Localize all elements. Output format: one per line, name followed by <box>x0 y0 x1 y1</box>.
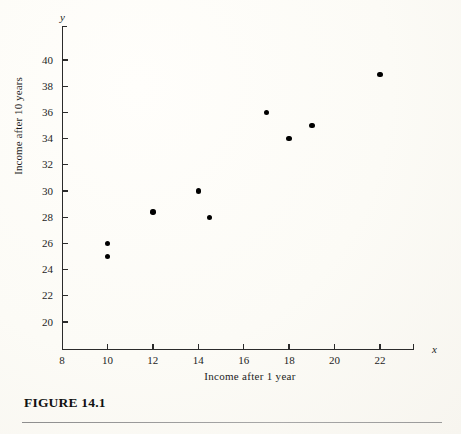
y-tick-label: 24 <box>27 264 53 275</box>
y-tick-label: 22 <box>27 290 53 301</box>
y-tick <box>62 243 68 244</box>
y-tick-label: 26 <box>27 238 53 249</box>
x-axis-symbol: x <box>432 343 437 355</box>
x-tick-label: 8 <box>47 355 77 366</box>
y-axis-title: Income after 10 years <box>12 46 24 206</box>
scatter-plot: 2022242628303234363840 810121416182022 y… <box>0 0 461 392</box>
y-tick <box>62 295 68 296</box>
x-tick <box>243 344 244 350</box>
caption-divider <box>22 422 442 423</box>
data-point <box>309 123 314 128</box>
x-tick-label: 22 <box>365 355 395 366</box>
data-point <box>207 215 212 220</box>
x-tick <box>152 344 153 350</box>
data-point <box>150 209 155 214</box>
y-axis-top-cap <box>62 26 67 27</box>
y-tick-label: 32 <box>27 159 53 170</box>
x-tick-label: 12 <box>138 355 168 366</box>
y-tick <box>62 269 68 270</box>
x-tick-label: 16 <box>229 355 259 366</box>
data-point <box>105 254 110 259</box>
y-tick <box>62 59 68 60</box>
x-axis-title: Income after 1 year <box>140 370 360 382</box>
y-tick-label: 28 <box>27 212 53 223</box>
y-tick-label: 38 <box>27 81 53 92</box>
x-tick-label: 14 <box>183 355 213 366</box>
data-point <box>377 72 382 77</box>
y-tick-label: 20 <box>27 317 53 328</box>
data-point <box>105 241 110 246</box>
x-tick-label: 18 <box>274 355 304 366</box>
y-tick-label: 34 <box>27 133 53 144</box>
data-point <box>264 110 269 115</box>
y-tick-label: 36 <box>27 107 53 118</box>
figure-caption-block: FIGURE 14.1 <box>0 392 461 434</box>
y-tick <box>62 190 68 191</box>
x-tick <box>198 344 199 350</box>
y-tick <box>62 321 68 322</box>
y-tick <box>62 164 68 165</box>
x-tick <box>107 344 108 350</box>
x-tick <box>334 344 335 350</box>
data-point <box>286 136 291 141</box>
x-tick-label: 10 <box>92 355 122 366</box>
x-tick-label: 20 <box>320 355 350 366</box>
x-axis-line <box>62 349 414 350</box>
y-axis-line <box>62 26 63 350</box>
y-tick <box>62 112 68 113</box>
y-tick <box>62 86 68 87</box>
y-tick <box>62 217 68 218</box>
x-tick <box>379 344 380 350</box>
x-axis-end-cap <box>413 344 414 350</box>
y-tick-label: 40 <box>27 55 53 66</box>
y-tick-label: 30 <box>27 186 53 197</box>
y-axis-symbol: y <box>60 11 65 23</box>
x-tick <box>288 344 289 350</box>
figure-area: 2022242628303234363840 810121416182022 y… <box>0 0 461 392</box>
figure-caption: FIGURE 14.1 <box>24 395 106 411</box>
data-point <box>196 188 201 193</box>
y-tick <box>62 138 68 139</box>
